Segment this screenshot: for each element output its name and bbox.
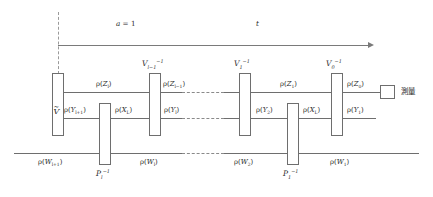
rho-label-Y-l: ρ(Yl) [164, 107, 179, 114]
gate-v-l-minus-1-inverse[interactable] [149, 73, 161, 136]
rho-var: W [147, 158, 154, 166]
gate-v-1-inverse[interactable] [239, 73, 251, 136]
rho-symbol: ρ [280, 80, 284, 88]
gate-p1-sub: 1 [288, 174, 291, 180]
rho-label-Z-l: ρ(Zl) [96, 81, 111, 88]
wire-middle-segment-1 [58, 118, 182, 119]
rho-symbol: ρ [115, 106, 119, 114]
rho-label-Z-1: ρ(Z1) [280, 81, 297, 88]
time-annotation: t [256, 20, 259, 27]
reference-dashed-line [58, 12, 59, 74]
gate-v1-sup: −1 [243, 58, 250, 64]
gate-v0-sub: 0 [331, 64, 334, 70]
wire-top-ellipsis [182, 92, 224, 93]
time-axis-arrow-head [368, 42, 374, 48]
wire-top-segment-1 [58, 92, 149, 93]
gate-p-1-inverse-label: P1−1 [283, 170, 298, 178]
rho-symbol: ρ [64, 106, 68, 114]
rho-label-Y-2: ρ(Y2) [256, 107, 273, 114]
gate-v-l-minus-1-inverse-label: Vl−1−1 [142, 60, 164, 68]
rho-label-X-L-right: ρ(XL) [303, 107, 320, 114]
rho-sub: l−1 [174, 84, 182, 89]
rho-label-Z-0: ρ(Z0) [347, 81, 364, 88]
rho-symbol: ρ [38, 158, 42, 166]
rho-label-W-2: ρ(W2) [234, 159, 253, 166]
rho-symbol: ρ [256, 106, 260, 114]
rho-var: W [337, 158, 344, 166]
gate-v1-sub: 1 [239, 64, 242, 70]
rho-symbol: ρ [234, 158, 238, 166]
rho-sub: l+1 [52, 162, 60, 167]
gate-p-l-sub: l [101, 174, 103, 180]
gate-v0-sup: −1 [335, 58, 342, 64]
gate-p-l-inverse[interactable] [99, 103, 111, 165]
measurement-box[interactable] [380, 85, 395, 99]
rho-symbol: ρ [164, 106, 168, 114]
gate-v-1-inverse-label: V1−1 [234, 60, 250, 68]
gate-v-lm1-sup: −1 [156, 58, 163, 64]
rho-symbol: ρ [163, 80, 167, 88]
rho-sub: 1 [358, 110, 361, 115]
rho-sub: L [127, 110, 130, 115]
gate-v-lm1-sub: l−1 [147, 64, 156, 70]
rho-symbol: ρ [347, 106, 351, 114]
gate-v-0-inverse-label: V0−1 [326, 60, 342, 68]
circuit-diagram-canvas: a = 1 t ~V Pl−1 Vl−1−1 V1−1 P1−1 V0−1 測量 [0, 0, 433, 197]
wire-top-segment-4 [341, 92, 380, 93]
gate-p-l-inverse-label: Pl−1 [96, 170, 110, 178]
wire-bottom-segment-2 [224, 153, 419, 154]
rho-symbol: ρ [347, 80, 351, 88]
rho-sub: l+1 [75, 110, 83, 115]
gate-p-l-sup: −1 [103, 168, 110, 174]
rho-sub: l [107, 84, 108, 89]
alpha-annotation: a = 1 [116, 20, 135, 27]
rho-sub: 2 [267, 110, 270, 115]
rho-label-W-l: ρ(Wl) [140, 159, 158, 166]
wire-bottom-ellipsis [182, 153, 224, 154]
wire-middle-ellipsis [182, 118, 224, 119]
rho-symbol: ρ [303, 106, 307, 114]
rho-symbol: ρ [140, 158, 144, 166]
rho-sub: 1 [344, 162, 347, 167]
rho-label-Z-l-minus-1: ρ(Zl−1) [163, 81, 185, 88]
gate-v-0-inverse[interactable] [331, 73, 343, 136]
rho-label-Y-l-plus-1: ρ(Yl+1) [64, 107, 86, 114]
rho-label-X-L-left: ρ(XL) [115, 107, 132, 114]
time-axis-arrow-line [58, 45, 370, 46]
rho-sub: 1 [291, 84, 294, 89]
rho-label-Y-1: ρ(Y1) [347, 107, 364, 114]
rho-sub: l [154, 162, 155, 167]
gate-p1-sup: −1 [291, 168, 298, 174]
rho-sub: 0 [358, 84, 361, 89]
rho-symbol: ρ [330, 158, 334, 166]
rho-label-W-l-plus-1: ρ(Wl+1) [38, 159, 62, 166]
rho-var: W [45, 158, 52, 166]
rho-sub: 2 [248, 162, 251, 167]
rho-var: W [241, 158, 248, 166]
gate-v-tilde-label: ~V [54, 108, 60, 116]
wire-bottom-segment-1 [14, 153, 182, 154]
rho-sub: l [175, 110, 176, 115]
rho-label-W-1: ρ(W1) [330, 159, 349, 166]
rho-sub: L [315, 110, 318, 115]
rho-symbol: ρ [96, 80, 100, 88]
gate-p-1-inverse[interactable] [287, 103, 299, 165]
measurement-label: 測量 [401, 88, 415, 96]
